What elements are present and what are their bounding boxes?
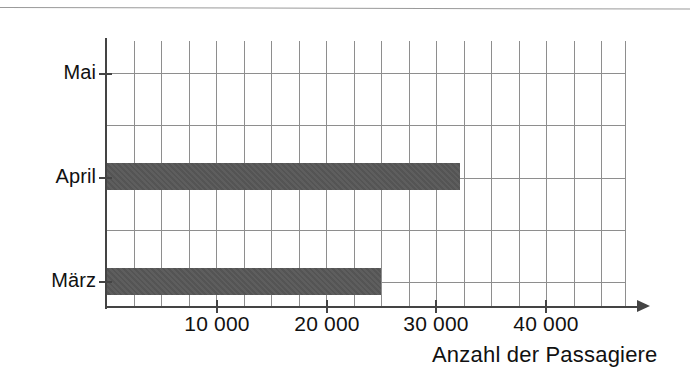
bar-chart: Mai April März 10 000 20 000 30 000 40 0… <box>0 0 690 389</box>
gridline-horizontal <box>106 73 625 74</box>
y-tick-label-mai-wrap: Mai <box>0 62 96 86</box>
bar-maerz <box>106 268 381 295</box>
y-tick-label-mai: Mai <box>63 62 96 82</box>
gridline-horizontal <box>106 125 625 126</box>
x-tick-label-10000: 10 000 <box>184 313 249 334</box>
gridline-vertical <box>491 41 492 307</box>
x-tick-label-20000: 20 000 <box>294 313 359 334</box>
gridline-vertical <box>546 41 547 307</box>
y-axis-tick <box>99 73 112 75</box>
chart-page: Mai April März 10 000 20 000 30 000 40 0… <box>0 0 690 389</box>
y-tick-label-april: April <box>55 166 96 186</box>
x-tick-label-30000: 30 000 <box>403 313 468 334</box>
gridline-vertical <box>601 41 602 307</box>
x-axis-arrow-icon <box>637 300 650 312</box>
gridline-horizontal <box>106 230 625 231</box>
bar-april <box>106 163 460 190</box>
plot-area <box>106 41 625 307</box>
gridline-vertical <box>574 41 575 307</box>
y-axis-tick <box>99 177 112 179</box>
x-tick-label-40000: 40 000 <box>513 313 578 334</box>
y-axis-line <box>105 38 107 309</box>
gridline-vertical <box>464 41 465 307</box>
y-tick-label-maerz-wrap: März <box>0 270 96 294</box>
gridline-vertical <box>519 41 520 307</box>
x-axis-line <box>105 306 643 308</box>
y-tick-label-maerz: März <box>51 270 96 290</box>
x-axis-title: Anzahl der Passagiere <box>432 344 658 366</box>
y-axis-tick <box>99 281 112 283</box>
y-tick-label-april-wrap: April <box>0 166 96 190</box>
gridline-vertical <box>625 41 626 307</box>
